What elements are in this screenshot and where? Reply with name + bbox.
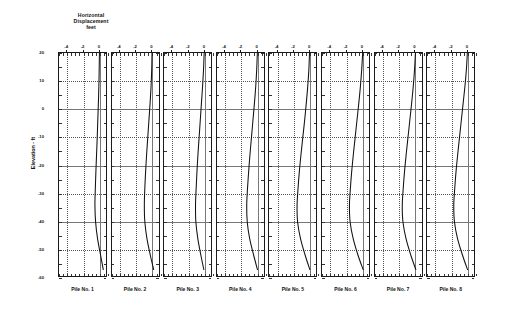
x-axis-ticks: -4-20: [111, 44, 160, 52]
panel-label: Pile No. 5: [268, 286, 317, 292]
y-tick-label: -30: [38, 190, 44, 195]
axis-tick: [261, 278, 264, 279]
axis-tick: [318, 53, 319, 56]
axis-tick: [161, 53, 162, 56]
axis-tick: [424, 53, 425, 56]
x-axis-ticks: -4-20: [321, 44, 370, 52]
axis-tick: [269, 278, 272, 279]
plot-area: [58, 52, 107, 277]
y-tick-label: -20: [38, 162, 44, 167]
deflection-curve: [217, 53, 266, 278]
axis-tick: [266, 53, 267, 56]
x-tick-label: -2: [133, 44, 137, 49]
x-axis-ticks: -4-20: [58, 44, 107, 52]
axis-tick: [371, 53, 372, 56]
x-tick-label: -2: [238, 44, 242, 49]
axis-tick: [476, 53, 477, 56]
x-tick-label: 0: [308, 44, 310, 49]
axis-tick: [314, 278, 317, 279]
deflection-curve: [164, 53, 213, 278]
x-tick-label: -2: [81, 44, 85, 49]
pile-deflection-figure: Horizontal Displacement feet Elevation -…: [0, 0, 507, 313]
deflection-curve: [375, 53, 424, 278]
axis-tick: [156, 278, 159, 279]
axis-tick: [164, 278, 167, 279]
axis-tick: [318, 274, 319, 277]
deflection-curve: [59, 53, 108, 278]
x-axis-ticks: -4-20: [163, 44, 212, 52]
axis-tick: [367, 278, 370, 279]
axis-tick: [419, 278, 422, 279]
panel-label: Pile No. 8: [426, 286, 475, 292]
panel-label: Pile No. 3: [163, 286, 212, 292]
y-tick-label: 0: [42, 106, 44, 111]
x-tick-label: 0: [255, 44, 257, 49]
x-tick-label: 0: [203, 44, 205, 49]
axis-tick: [104, 278, 107, 279]
plot-area: [374, 52, 423, 277]
plot-area: [321, 52, 370, 277]
pile-panel: -4-20Pile No. 7: [374, 0, 423, 313]
y-tick-label: -10: [38, 134, 44, 139]
deflection-curve: [322, 53, 371, 278]
panel-label: Pile No. 7: [374, 286, 423, 292]
x-tick-label: -4: [275, 44, 279, 49]
y-axis-ticks: 20100-10-20-30-40-50-60: [26, 0, 44, 313]
axis-tick: [266, 274, 267, 277]
x-tick-label: -2: [449, 44, 453, 49]
x-tick-label: 0: [361, 44, 363, 49]
x-tick-label: -4: [64, 44, 68, 49]
pile-panel: -4-20Pile No. 1: [58, 0, 107, 313]
y-tick-label: 10: [39, 78, 44, 83]
axis-tick: [112, 278, 115, 279]
x-tick-label: -2: [291, 44, 295, 49]
plot-area: [163, 52, 212, 277]
y-tick-label: 20: [39, 50, 44, 55]
deflection-curve: [427, 53, 476, 278]
axis-tick: [375, 278, 378, 279]
deflection-curve: [112, 53, 161, 278]
plot-area: [111, 52, 160, 277]
axis-tick: [108, 274, 109, 277]
pile-panel: -4-20Pile No. 6: [321, 0, 370, 313]
axis-tick: [476, 274, 477, 277]
axis-tick: [322, 278, 325, 279]
panel-label: Pile No. 6: [321, 286, 370, 292]
panel-label: Pile No. 2: [111, 286, 160, 292]
axis-tick: [217, 278, 220, 279]
x-tick-label: 0: [466, 44, 468, 49]
deflection-curve: [269, 53, 318, 278]
x-tick-label: -2: [344, 44, 348, 49]
axis-tick: [161, 274, 162, 277]
x-tick-label: -4: [327, 44, 331, 49]
x-tick-label: -4: [169, 44, 173, 49]
panel-label: Pile No. 1: [58, 286, 107, 292]
x-tick-label: -2: [396, 44, 400, 49]
x-axis-ticks: -4-20: [426, 44, 475, 52]
x-axis-ticks: -4-20: [374, 44, 423, 52]
axis-tick: [427, 278, 430, 279]
axis-tick: [424, 274, 425, 277]
x-tick-label: -4: [380, 44, 384, 49]
axis-tick: [213, 53, 214, 56]
panel-label: Pile No. 4: [216, 286, 265, 292]
x-axis-ticks: -4-20: [268, 44, 317, 52]
axis-tick: [472, 278, 475, 279]
x-tick-label: -4: [222, 44, 226, 49]
x-tick-label: -2: [186, 44, 190, 49]
x-tick-label: -4: [432, 44, 436, 49]
pile-panel: -4-20Pile No. 2: [111, 0, 160, 313]
x-tick-label: 0: [98, 44, 100, 49]
y-tick-label: -40: [38, 218, 44, 223]
axis-tick: [209, 278, 212, 279]
axis-tick: [213, 274, 214, 277]
axis-tick: [108, 53, 109, 56]
pile-panel: -4-20Pile No. 4: [216, 0, 265, 313]
x-tick-label: 0: [413, 44, 415, 49]
x-tick-label: -4: [117, 44, 121, 49]
y-tick-label: -50: [38, 246, 44, 251]
pile-panel: -4-20Pile No. 3: [163, 0, 212, 313]
plot-area: [426, 52, 475, 277]
axis-tick: [59, 278, 62, 279]
x-tick-label: 0: [150, 44, 152, 49]
